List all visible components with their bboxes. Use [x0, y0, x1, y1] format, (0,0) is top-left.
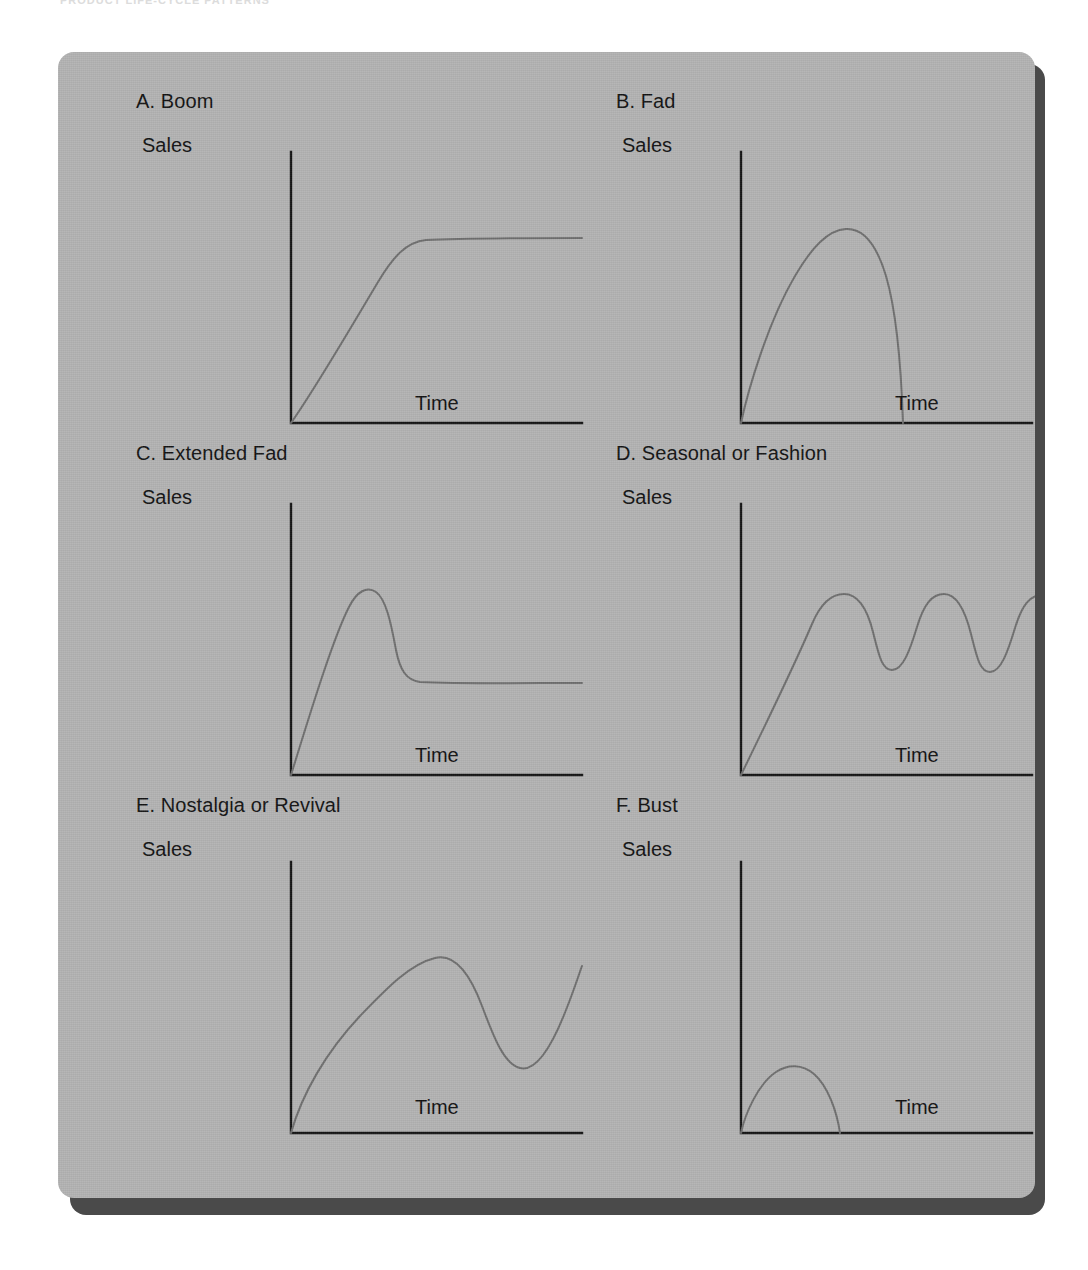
plot-b	[590, 90, 1035, 440]
running-head: PRODUCT LIFE-CYCLE PATTERNS	[60, 0, 660, 8]
chart-panel-e: E. Nostalgia or Revival Sales Time	[110, 794, 580, 1144]
chart-panel-b: B. Fad Sales Time	[590, 90, 1035, 440]
x-axis-label-c: Time	[415, 744, 459, 767]
plot-c	[110, 442, 580, 792]
plot-f	[590, 794, 1035, 1144]
figure-panel: A. Boom Sales Time B. Fad Sales Time C. …	[58, 52, 1035, 1198]
x-axis-label-f: Time	[895, 1096, 939, 1119]
axis-lines-f	[741, 862, 1032, 1133]
axis-lines-e	[291, 862, 582, 1133]
x-axis-label-b: Time	[895, 392, 939, 415]
curve-b	[741, 229, 903, 423]
curve-f	[741, 1066, 840, 1133]
plot-d	[590, 442, 1035, 792]
axis-lines-d	[741, 504, 1032, 775]
chart-panel-f: F. Bust Sales Time	[590, 794, 1035, 1144]
x-axis-label-a: Time	[415, 392, 459, 415]
chart-panel-c: C. Extended Fad Sales Time	[110, 442, 580, 792]
x-axis-label-e: Time	[415, 1096, 459, 1119]
chart-panel-d: D. Seasonal or Fashion Sales Time	[590, 442, 1035, 792]
chart-panel-a: A. Boom Sales Time	[110, 90, 580, 440]
plot-e	[110, 794, 580, 1144]
chart-grid: A. Boom Sales Time B. Fad Sales Time C. …	[58, 52, 1035, 1198]
axis-lines-a	[291, 152, 582, 423]
plot-a	[110, 90, 580, 440]
axis-lines-b	[741, 152, 1032, 423]
x-axis-label-d: Time	[895, 744, 939, 767]
curve-d	[741, 594, 1035, 775]
